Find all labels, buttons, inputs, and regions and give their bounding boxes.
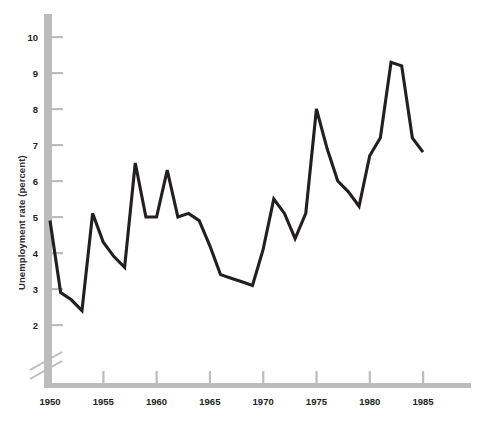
x-tick-label: 1980 (359, 396, 380, 407)
y-tick-label: 7 (33, 140, 38, 151)
x-axis-ticks (49, 371, 424, 383)
y-tick-label: 10 (27, 32, 38, 43)
x-tick-label: 1975 (306, 396, 328, 407)
y-tick-label: 4 (33, 248, 39, 259)
data-series-line (50, 62, 423, 310)
y-axis-bar (44, 14, 52, 387)
y-axis-ticks (52, 36, 63, 326)
y-tick-label: 6 (33, 176, 38, 187)
x-tick-label: 1950 (39, 396, 60, 407)
x-axis-tick-labels: 19501955196019651970197519801985 (39, 396, 434, 407)
x-tick-label: 1955 (93, 396, 115, 407)
y-tick-label: 2 (33, 320, 38, 331)
y-tick-label: 3 (33, 284, 38, 295)
y-axis-tick-labels: 2345678910 (27, 32, 38, 331)
x-tick-label: 1985 (412, 396, 434, 407)
y-tick-label: 8 (33, 104, 38, 115)
unemployment-rate-line-chart: Unemployment rate (percent) 2345678910 1… (0, 0, 477, 422)
x-axis-bar (44, 383, 471, 388)
x-tick-label: 1965 (199, 396, 221, 407)
unemployment-rate-polyline (50, 62, 423, 310)
y-tick-label: 9 (33, 68, 38, 79)
x-tick-label: 1960 (146, 396, 167, 407)
x-tick-label: 1970 (253, 396, 274, 407)
chart-canvas: 2345678910 19501955196019651970197519801… (0, 0, 477, 422)
y-tick-label: 5 (33, 212, 39, 223)
